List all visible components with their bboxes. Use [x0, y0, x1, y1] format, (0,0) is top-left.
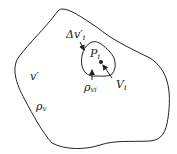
V-label: Vi — [116, 78, 127, 92]
delta-v-label: Δv′i — [65, 28, 86, 42]
rho-v-label: ρv — [35, 100, 46, 113]
v-prime-label: v′ — [30, 70, 39, 83]
volume-diagram: Δv′i Pi Vi ρvi v′ ρv — [0, 0, 177, 154]
rho-vi-label: ρvi — [83, 81, 97, 94]
p-label: Pi — [89, 47, 100, 61]
delta-v-arrow — [80, 42, 84, 50]
